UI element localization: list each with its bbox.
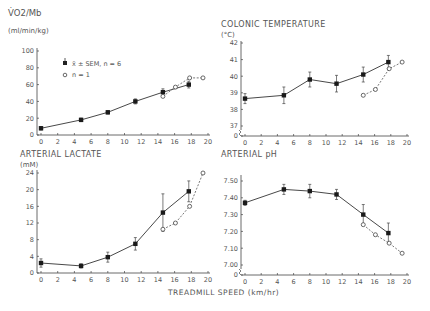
- axis-break-icon: [239, 130, 241, 136]
- x-tick-label: 10: [120, 138, 128, 146]
- data-point-filled-square: [243, 201, 247, 205]
- x-tick-label: 6: [292, 139, 296, 147]
- y-tick-label: 0: [30, 131, 34, 139]
- x-tick-label: 16: [170, 138, 178, 146]
- x-tick-label: 4: [72, 138, 76, 146]
- y-tick-label: 100: [22, 47, 34, 55]
- y-tick-label: 20: [26, 186, 34, 194]
- x-tick-label: 12: [338, 278, 346, 286]
- x-tick-label: 0: [243, 139, 247, 147]
- x-tick-label: 20: [204, 276, 212, 284]
- series-line-mean: [245, 62, 388, 99]
- y-tick-label: 7.20: [224, 228, 238, 236]
- data-point-filled-square: [161, 90, 165, 94]
- data-point-open-circle: [361, 93, 365, 97]
- x-tick-label: 20: [403, 278, 411, 286]
- x-tick-label: 6: [89, 276, 93, 284]
- data-point-open-circle: [173, 85, 177, 89]
- chart-title-ph: ARTERIAL pH: [221, 150, 277, 159]
- x-tick-label: 2: [56, 138, 60, 146]
- series-line-mean: [41, 191, 189, 266]
- data-point-open-circle: [400, 60, 404, 64]
- chart-title-vo2: V̇O2/Mb: [8, 7, 42, 18]
- data-point-open-circle: [387, 67, 391, 71]
- x-tick-label: 16: [170, 276, 178, 284]
- data-point-open-circle: [400, 251, 404, 255]
- data-point-filled-square: [106, 255, 110, 259]
- data-point-filled-square: [282, 93, 286, 97]
- y-tick-label: 12: [26, 219, 34, 227]
- x-tick-label: 10: [322, 139, 330, 147]
- legend-filled-square-icon: [63, 61, 67, 65]
- x-tick-label: 2: [56, 276, 60, 284]
- data-point-filled-square: [308, 77, 312, 81]
- legend-mean-label: x̄ ± SEM, n = 6: [72, 60, 121, 68]
- data-point-filled-square: [133, 242, 137, 246]
- data-point-open-circle: [361, 223, 365, 227]
- x-tick-label: 18: [387, 278, 395, 286]
- series-line-single: [163, 78, 203, 97]
- x-tick-label: 14: [354, 139, 362, 147]
- y-tick-label: 7.30: [224, 211, 238, 219]
- x-tick-label: 18: [387, 139, 395, 147]
- data-point-filled-square: [386, 60, 390, 64]
- x-tick-label: 20: [204, 138, 212, 146]
- x-tick-label: 8: [308, 139, 312, 147]
- x-tick-label: 10: [120, 276, 128, 284]
- y-tick-label: 42: [230, 39, 238, 47]
- x-tick-label: 16: [370, 139, 378, 147]
- data-point-open-circle: [188, 76, 192, 80]
- chart-arterial-ph: 0246810121416182007.007.107.207.307.407.…: [224, 175, 412, 286]
- y-tick-label: 8: [30, 236, 34, 244]
- chart-arterial-lactate: 0246810121416182004812162024: [26, 169, 212, 284]
- data-point-open-circle: [161, 94, 165, 98]
- x-tick-label: 4: [275, 139, 279, 147]
- legend-open-circle-icon: [63, 73, 67, 77]
- series-line-single: [163, 173, 203, 229]
- data-point-filled-square: [187, 82, 191, 86]
- figure: 02468101214161820020406080100 0246810121…: [0, 0, 430, 311]
- x-tick-label: 12: [137, 276, 145, 284]
- series-line-single: [363, 62, 402, 95]
- legend-single-label: n = 1: [72, 71, 90, 79]
- x-tick-label: 0: [39, 138, 43, 146]
- data-point-open-circle: [188, 204, 192, 208]
- y-tick-label: 60: [26, 81, 34, 89]
- data-point-filled-square: [187, 189, 191, 193]
- y-tick-label: 38: [230, 106, 238, 114]
- axis-break-icon: [239, 269, 241, 275]
- x-tick-label: 4: [275, 278, 279, 286]
- data-point-filled-square: [79, 118, 83, 122]
- y-tick-label: 80: [26, 64, 34, 72]
- x-tick-label: 14: [354, 278, 362, 286]
- y-tick-label: 40: [26, 98, 34, 106]
- data-point-filled-square: [334, 81, 338, 85]
- data-point-filled-square: [39, 126, 43, 130]
- data-point-filled-square: [282, 187, 286, 191]
- data-point-open-circle: [161, 227, 165, 231]
- series-line-mean: [41, 85, 189, 129]
- x-tick-label: 12: [137, 138, 145, 146]
- data-point-filled-square: [243, 96, 247, 100]
- x-tick-label: 6: [292, 278, 296, 286]
- y-tick-label: 0: [30, 269, 34, 277]
- legend: x̄ ± SEM, n = 6 n = 1: [63, 58, 121, 79]
- x-tick-label: 14: [154, 138, 162, 146]
- x-tick-label: 6: [89, 138, 93, 146]
- chart-ylabel-vo2: (ml/min/kg): [8, 27, 49, 35]
- y-tick-label: 37: [230, 122, 238, 130]
- y-tick-label: 7.50: [224, 177, 238, 185]
- x-tick-label: 18: [187, 138, 195, 146]
- y-tick-label: 7.10: [224, 245, 238, 253]
- y-tick-label: 7.40: [224, 194, 238, 202]
- y-tick-label: 24: [26, 169, 34, 177]
- x-tick-label: 0: [243, 278, 247, 286]
- x-tick-label: 10: [322, 278, 330, 286]
- x-tick-label: 12: [338, 139, 346, 147]
- data-point-filled-square: [308, 189, 312, 193]
- data-point-filled-square: [161, 210, 165, 214]
- series-line-mean: [245, 189, 388, 233]
- data-point-filled-square: [334, 192, 338, 196]
- chart-ylabel-lactate: (mM): [20, 161, 39, 169]
- y-tick-label: 7.00: [224, 261, 238, 269]
